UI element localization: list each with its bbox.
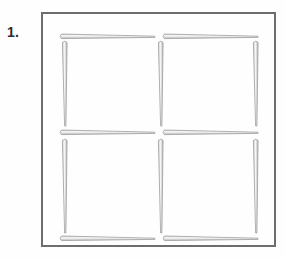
matchstick-v-mid-lower (158, 139, 163, 233)
problem-number-label: 1. (7, 25, 19, 39)
matchstick-h-top-left (60, 34, 155, 39)
puzzle-frame (41, 12, 276, 247)
matchstick-v-left-upper (62, 41, 67, 126)
matchstick-layer (43, 14, 278, 249)
puzzle-page: 1. (0, 0, 285, 259)
matchstick-h-bottom-right (163, 236, 258, 241)
matchstick-v-right-lower (253, 139, 258, 233)
matchstick-v-mid-upper (158, 41, 163, 126)
matchstick-v-right-upper (253, 41, 258, 126)
matchstick-v-left-lower (62, 139, 67, 233)
matchstick-diagram (43, 14, 278, 249)
matchstick-h-mid-right (163, 130, 258, 135)
matchstick-h-top-right (163, 34, 258, 39)
matchstick-h-bottom-left (60, 236, 155, 241)
matchstick-h-mid-left (60, 130, 155, 135)
